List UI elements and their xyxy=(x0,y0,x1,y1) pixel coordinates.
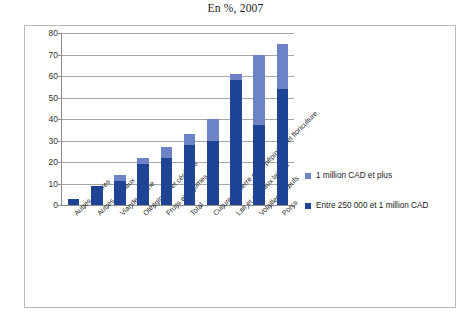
y-axis-tick-label: 0 xyxy=(38,200,58,210)
bar-8[interactable] xyxy=(230,74,242,205)
bar-6[interactable] xyxy=(184,134,196,205)
legend-label-dark: Entre 250 000 et 1 million CAD xyxy=(316,201,428,210)
bar-segment-entre-250000-et-1-million xyxy=(137,164,149,205)
y-axis-tick: 40 xyxy=(36,114,58,124)
bar-segment-1-million-et-plus xyxy=(184,134,196,145)
y-axis-tick-label: 20 xyxy=(38,157,58,167)
bar-4[interactable] xyxy=(137,158,149,205)
bar-segment-entre-250000-et-1-million xyxy=(277,89,289,205)
bar-segment-entre-250000-et-1-million xyxy=(230,80,242,205)
y-axis-tick-label: 80 xyxy=(38,28,58,38)
y-axis-tick: 0 xyxy=(36,200,58,210)
y-axis-tick: 50 xyxy=(36,93,58,103)
legend-swatch-light xyxy=(305,173,311,179)
bar-segment-1-million-et-plus xyxy=(161,147,173,158)
bar-segment-1-million-et-plus xyxy=(253,55,265,126)
legend-item-1-million-et-plus[interactable]: 1 million CAD et plus xyxy=(305,171,392,180)
bar-segment-entre-250000-et-1-million xyxy=(207,141,219,206)
chart-figure: En %, 2007 01020304050607080Autres cultu… xyxy=(0,0,471,336)
y-axis-tick: 20 xyxy=(36,157,58,167)
y-axis-tick: 60 xyxy=(36,71,58,81)
y-axis-tick: 80 xyxy=(36,28,58,38)
gridline xyxy=(62,33,294,34)
bar-segment-entre-250000-et-1-million xyxy=(253,125,265,205)
bar-2[interactable] xyxy=(91,186,103,205)
bar-segment-1-million-et-plus xyxy=(207,119,219,141)
bar-segment-entre-250000-et-1-million xyxy=(161,158,173,205)
y-axis-tick-label: 40 xyxy=(38,114,58,124)
bar-7[interactable] xyxy=(207,119,219,205)
bar-segment-entre-250000-et-1-million xyxy=(91,186,103,205)
legend-item-entre-250000-et-1-million[interactable]: Entre 250 000 et 1 million CAD xyxy=(305,201,428,210)
legend-label-light: 1 million CAD et plus xyxy=(316,171,392,180)
bar-9[interactable] xyxy=(253,55,265,206)
y-axis-tick: 30 xyxy=(36,136,58,146)
y-axis-tick-label: 10 xyxy=(38,179,58,189)
plot-area: 01020304050607080Autres culturesAutres a… xyxy=(0,0,471,336)
y-axis-tick-label: 70 xyxy=(38,50,58,60)
legend-swatch-dark xyxy=(305,203,311,209)
y-axis-tick-label: 60 xyxy=(38,71,58,81)
bar-10[interactable] xyxy=(277,44,289,205)
y-axis-tick-label: 30 xyxy=(38,136,58,146)
bar-3[interactable] xyxy=(114,175,126,205)
bar-segment-1-million-et-plus xyxy=(277,44,289,89)
y-axis-line xyxy=(61,33,62,206)
bar-5[interactable] xyxy=(161,147,173,205)
y-axis-tick: 10 xyxy=(36,179,58,189)
y-axis-tick-label: 50 xyxy=(38,93,58,103)
bar-segment-entre-250000-et-1-million xyxy=(114,181,126,205)
bar-segment-entre-250000-et-1-million xyxy=(184,145,196,205)
y-axis-tick: 70 xyxy=(36,50,58,60)
